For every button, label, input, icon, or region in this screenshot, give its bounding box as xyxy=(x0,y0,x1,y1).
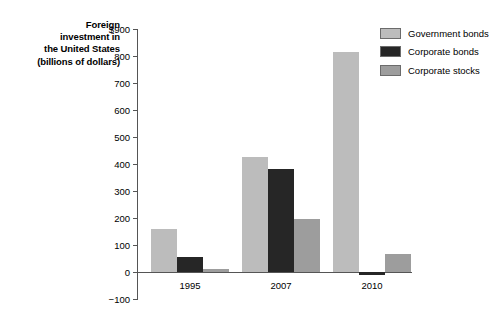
bar-2007-corporate-stocks xyxy=(294,219,320,272)
y-tick-mark xyxy=(133,218,138,219)
y-tick-mark xyxy=(133,245,138,246)
y-tick-label: 400 xyxy=(114,159,130,170)
chart-legend: Government bondsCorporate bondsCorporate… xyxy=(380,24,492,80)
bar-1995-government-bonds xyxy=(151,229,177,272)
y-tick-mark xyxy=(133,191,138,192)
y-tick-mark xyxy=(133,83,138,84)
y-tick-label: 0 xyxy=(125,267,130,278)
legend-swatch-icon xyxy=(380,28,401,39)
bar-2010-corporate-stocks xyxy=(385,254,411,272)
legend-label: Corporate bonds xyxy=(408,46,479,57)
y-tick-mark xyxy=(133,272,138,273)
legend-label: Corporate stocks xyxy=(408,65,480,76)
y-tick-label: 600 xyxy=(114,105,130,116)
legend-item-1: Corporate bonds xyxy=(380,43,492,62)
x-axis-label-2010: 2010 xyxy=(319,280,425,291)
y-tick-label: 300 xyxy=(114,186,130,197)
y-tick-mark xyxy=(133,299,138,300)
axis-title-line-1: Foreign xyxy=(8,19,120,31)
y-tick-label: $900 xyxy=(109,24,130,35)
bar-2007-government-bonds xyxy=(242,157,268,272)
bar-1995-corporate-bonds xyxy=(177,257,203,272)
y-tick-label: −100 xyxy=(109,294,130,305)
bar-2010-corporate-bonds xyxy=(359,272,385,275)
y-tick-mark xyxy=(133,110,138,111)
y-tick-label: 700 xyxy=(114,78,130,89)
legend-label: Government bonds xyxy=(408,28,489,39)
y-tick-mark xyxy=(133,29,138,30)
y-tick-label: 100 xyxy=(114,240,130,251)
y-tick-mark xyxy=(133,56,138,57)
legend-swatch-icon xyxy=(380,65,401,76)
y-tick-mark xyxy=(133,164,138,165)
y-tick-label: 200 xyxy=(114,213,130,224)
y-tick-label: 800 xyxy=(114,51,130,62)
legend-item-2: Corporate stocks xyxy=(380,61,492,80)
legend-item-0: Government bonds xyxy=(380,24,492,43)
plot-area: $9008007006005004003002001000−100 199520… xyxy=(137,29,412,299)
bar-2010-government-bonds xyxy=(333,52,359,272)
bar-chart: Foreign investment in the United States … xyxy=(0,0,494,311)
y-tick-mark xyxy=(133,137,138,138)
chart-axis-title: Foreign investment in the United States … xyxy=(8,19,120,68)
bar-1995-corporate-stocks xyxy=(203,269,229,272)
axis-title-line-4: (billions of dollars) xyxy=(8,56,120,68)
bar-2007-corporate-bonds xyxy=(268,169,294,272)
y-tick-label: 500 xyxy=(114,132,130,143)
legend-swatch-icon xyxy=(380,46,401,57)
axis-title-line-3: the United States xyxy=(8,43,120,55)
axis-title-line-2: investment in xyxy=(8,31,120,43)
